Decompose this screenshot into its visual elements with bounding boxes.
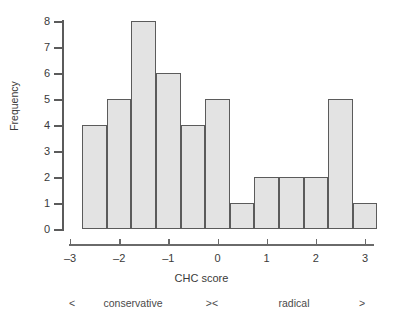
y-axis-tick	[54, 21, 62, 23]
y-axis-tick-label: 5	[36, 94, 50, 105]
y-axis-title: Frequency	[8, 66, 20, 146]
y-axis-tick	[54, 99, 62, 101]
x-axis-tick-label: 3	[350, 252, 380, 264]
x-axis-tick-label: 2	[301, 252, 331, 264]
x-axis-tick	[119, 239, 120, 246]
y-axis-tick-label: 6	[36, 68, 50, 79]
x-axis-tick	[316, 239, 317, 246]
y-axis-tick-label: 2	[36, 172, 50, 183]
histogram-bar	[353, 203, 378, 229]
y-axis-tick	[54, 73, 62, 75]
x-axis-tick-label: 0	[203, 252, 233, 264]
y-axis-line	[62, 20, 64, 231]
histogram-bar	[304, 177, 329, 229]
y-axis-tick-label: 8	[36, 16, 50, 27]
annotation-left-arrow: <	[69, 297, 75, 309]
y-axis-tick-label: 4	[36, 120, 50, 131]
y-axis-tick-label: 3	[36, 146, 50, 157]
x-axis-title: CHC score	[0, 272, 403, 284]
x-axis-tick-label: –1	[153, 252, 183, 264]
y-axis-tick	[54, 125, 62, 127]
histogram-bar	[254, 177, 279, 229]
histogram-figure: 012345678 Frequency –3–2–10123 CHC score…	[0, 0, 403, 328]
y-axis-tick	[54, 203, 62, 205]
y-axis-tick	[54, 229, 62, 231]
histogram-bar	[131, 21, 156, 229]
y-axis-tick	[54, 177, 62, 179]
x-axis-tick-label: 1	[252, 252, 282, 264]
histogram-bar	[279, 177, 304, 229]
y-axis-tick-label: 1	[36, 198, 50, 209]
histogram-bar	[82, 125, 107, 229]
histogram-bar	[205, 99, 230, 229]
histogram-bar	[156, 73, 181, 229]
annotation-middle-arrows: ><	[206, 297, 218, 309]
y-axis-tick	[54, 151, 62, 153]
histogram-bar	[230, 203, 255, 229]
x-axis-tick	[267, 239, 268, 246]
y-axis-tick-label: 0	[36, 224, 50, 235]
x-axis-tick	[365, 239, 366, 246]
histogram-bar	[181, 125, 206, 229]
histogram-bar	[107, 99, 132, 229]
annotation-right-arrow: >	[359, 297, 365, 309]
x-axis-tick	[70, 239, 71, 246]
x-axis-tick	[218, 239, 219, 246]
annotation-conservative: conservative	[104, 297, 163, 309]
x-axis-tick-label: –3	[55, 252, 85, 264]
plot-area	[70, 21, 365, 229]
x-axis-tick	[168, 239, 169, 246]
y-axis-tick	[54, 47, 62, 49]
x-axis-tick-label: –2	[104, 252, 134, 264]
annotation-radical: radical	[279, 297, 310, 309]
histogram-bar	[328, 99, 353, 229]
x-axis-line	[69, 244, 374, 246]
y-axis-tick-label: 7	[36, 42, 50, 53]
